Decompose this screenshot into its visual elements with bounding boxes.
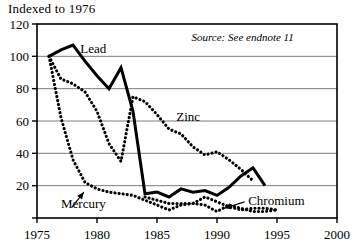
series-label-mercury: Mercury [61, 196, 106, 211]
series-label-lead: Lead [80, 41, 106, 56]
series-line-zinc [49, 56, 253, 180]
series-line-mercury [49, 56, 277, 211]
x-axis-tick-label: 1975 [24, 227, 50, 242]
series-label-zinc: Zinc [176, 109, 200, 124]
x-axis-tick-label: 1990 [204, 227, 230, 242]
y-axis-tick-label: 60 [16, 114, 29, 129]
y-axis-tick-label: 120 [10, 17, 30, 32]
y-axis-tick-label: 40 [16, 146, 29, 161]
x-axis-tick-label: 1995 [264, 227, 290, 242]
series-label-chromium: Chromium [248, 193, 304, 208]
y-axis-tick-label: 80 [16, 81, 29, 96]
x-axis-tick-label: 1980 [84, 227, 110, 242]
source-note: Source: See endnote 11 [191, 31, 293, 43]
y-axis-tick-label: 100 [10, 49, 30, 64]
x-axis-tick-label: 1985 [144, 227, 170, 242]
chart-plot-area: 20406080100120197519801985199019952000Le… [0, 0, 358, 250]
chart-container: Indexed to 1976 204060801001201975198019… [0, 0, 358, 250]
y-axis-tick-label: 20 [16, 178, 29, 193]
x-axis-tick-label: 2000 [324, 227, 350, 242]
